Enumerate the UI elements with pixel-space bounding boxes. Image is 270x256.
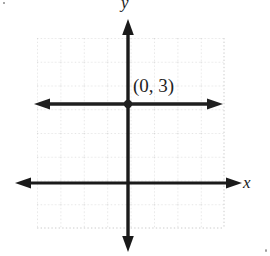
grid-lines <box>37 38 224 228</box>
x-axis-label: x <box>243 174 251 191</box>
coordinate-plane-figure: (0, 3) x y <box>0 0 270 256</box>
point-coordinate-label: (0, 3) <box>133 76 174 95</box>
point-marker <box>124 100 132 108</box>
y-axis-label: y <box>121 0 129 11</box>
scan-speck <box>3 2 5 4</box>
graph-canvas <box>0 0 270 256</box>
scan-speck <box>265 249 267 252</box>
